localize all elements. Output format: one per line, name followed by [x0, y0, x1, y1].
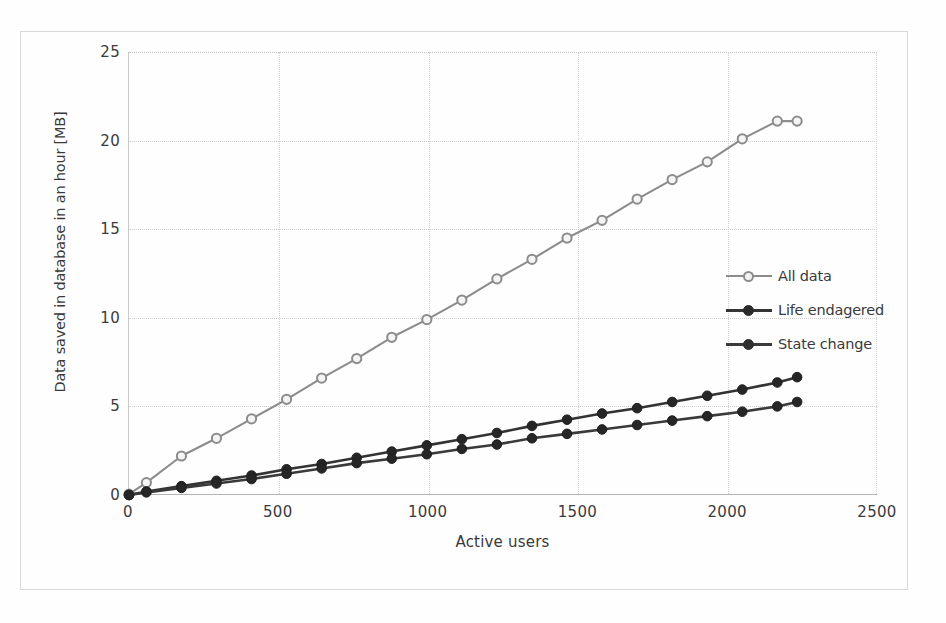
- x-axis-title: Active users: [128, 533, 877, 551]
- data-point-filled-circle: [792, 372, 802, 382]
- data-point-open-circle: [212, 434, 221, 443]
- legend-label: All data: [772, 268, 832, 284]
- data-point-open-circle: [793, 117, 802, 126]
- data-point-open-circle: [703, 157, 712, 166]
- data-point-filled-circle: [282, 469, 292, 479]
- data-point-filled-circle: [527, 434, 537, 444]
- x-tick-label: 1000: [408, 503, 447, 521]
- data-point-open-circle: [387, 333, 396, 342]
- data-point-filled-circle: [387, 454, 397, 464]
- data-point-filled-circle: [773, 402, 783, 412]
- y-tick-label: 20: [100, 132, 120, 150]
- data-point-filled-circle: [422, 441, 432, 451]
- data-point-filled-circle: [457, 444, 467, 454]
- data-point-filled-circle: [177, 483, 187, 493]
- data-point-filled-circle: [352, 458, 362, 468]
- x-tick-label: 1500: [558, 503, 597, 521]
- y-axis-title: Data saved in database in an hour [MB]: [52, 52, 68, 452]
- data-point-filled-circle: [667, 416, 677, 426]
- data-point-open-circle: [352, 354, 361, 363]
- x-tick-label: 2000: [708, 503, 747, 521]
- data-point-filled-circle: [492, 428, 502, 438]
- y-tick-label: 10: [100, 309, 120, 327]
- data-point-filled-circle: [597, 409, 607, 419]
- data-point-open-circle: [142, 478, 151, 487]
- data-point-open-circle: [457, 295, 466, 304]
- data-point-filled-circle: [702, 411, 712, 421]
- legend-item-all-data[interactable]: All data: [726, 259, 916, 293]
- data-point-open-circle: [738, 134, 747, 143]
- y-tick-label: 15: [100, 220, 120, 238]
- x-tick-label: 2500: [857, 503, 896, 521]
- data-point-filled-circle: [492, 440, 502, 450]
- data-point-open-circle: [527, 255, 536, 264]
- data-point-open-circle: [282, 395, 291, 404]
- legend-label: State change: [772, 336, 872, 352]
- chart-figure: 25 20 15 10 5 0 0 500 1000 1500 2000 250…: [0, 0, 946, 623]
- legend-swatch-filled-circle-icon: [726, 303, 772, 317]
- data-point-filled-circle: [142, 488, 152, 498]
- y-tick-label: 25: [100, 43, 120, 61]
- data-point-open-circle: [597, 216, 606, 225]
- data-point-filled-circle: [667, 397, 677, 407]
- legend-swatch-filled-circle-icon: [726, 337, 772, 351]
- data-point-filled-circle: [702, 391, 712, 401]
- data-point-filled-circle: [247, 474, 257, 484]
- data-point-filled-circle: [737, 407, 747, 417]
- data-point-open-circle: [773, 117, 782, 126]
- data-point-filled-circle: [597, 425, 607, 435]
- data-point-filled-circle: [422, 449, 432, 459]
- data-point-filled-circle: [792, 397, 802, 407]
- data-point-open-circle: [668, 175, 677, 184]
- data-point-filled-circle: [457, 434, 467, 444]
- data-point-filled-circle: [737, 385, 747, 395]
- data-point-filled-circle: [773, 378, 783, 388]
- data-point-open-circle: [562, 233, 571, 242]
- legend-label: Life endagered: [772, 302, 884, 318]
- x-axis-tick-labels: 0 500 1000 1500 2000 2500: [128, 503, 877, 527]
- series-life-endagered: [124, 372, 802, 499]
- legend-item-life-endagered[interactable]: Life endagered: [726, 293, 916, 327]
- data-point-open-circle: [247, 414, 256, 423]
- data-point-open-circle: [422, 315, 431, 324]
- data-point-filled-circle: [632, 403, 642, 413]
- legend-item-state-change[interactable]: State change: [726, 327, 916, 361]
- data-point-open-circle: [177, 451, 186, 460]
- series-state-change: [124, 397, 802, 500]
- y-tick-label: 5: [110, 397, 120, 415]
- data-point-filled-circle: [527, 421, 537, 431]
- data-point-open-circle: [492, 274, 501, 283]
- x-tick-label: 0: [123, 503, 133, 521]
- data-point-filled-circle: [212, 479, 222, 489]
- y-tick-label: 0: [110, 486, 120, 504]
- y-axis-tick-labels: 25 20 15 10 5 0: [78, 52, 120, 495]
- data-point-filled-circle: [562, 429, 572, 439]
- data-point-open-circle: [317, 373, 326, 382]
- x-tick-label: 500: [263, 503, 293, 521]
- data-point-filled-circle: [562, 415, 572, 425]
- data-point-open-circle: [633, 194, 642, 203]
- data-point-filled-circle: [317, 464, 327, 474]
- chart-legend: All data Life endagered State change: [726, 259, 916, 361]
- data-point-filled-circle: [124, 490, 134, 500]
- data-point-filled-circle: [632, 420, 642, 430]
- legend-swatch-open-circle-icon: [726, 269, 772, 283]
